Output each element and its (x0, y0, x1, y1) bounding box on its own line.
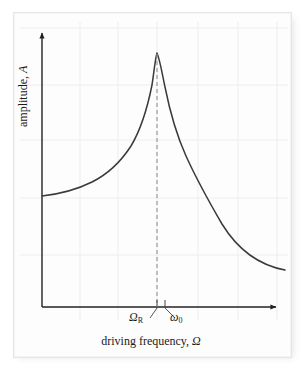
plot-canvas (0, 0, 302, 373)
x-axis-title-symbol: Ω (192, 334, 201, 348)
x-tick-label-omega-r-base: Ω (129, 310, 138, 324)
x-axis-title-text: driving frequency, (101, 334, 192, 348)
amplitude-curve (42, 53, 285, 270)
resonance-figure: ΩR ω0 driving frequency, Ω amplitude, A (0, 0, 302, 373)
x-axis-title: driving frequency, Ω (0, 335, 302, 347)
y-axis-title-text: amplitude, (16, 73, 30, 127)
x-tick-label-omega-0: ω0 (170, 311, 182, 325)
y-axis-title-symbol: A (16, 66, 30, 73)
x-tick-label-omega-0-sub: 0 (178, 316, 182, 325)
x-tick-label-omega-r: ΩR (129, 311, 143, 325)
x-tick-label-omega-r-sub: R (138, 316, 143, 325)
y-axis-title: amplitude, A (17, 66, 29, 127)
